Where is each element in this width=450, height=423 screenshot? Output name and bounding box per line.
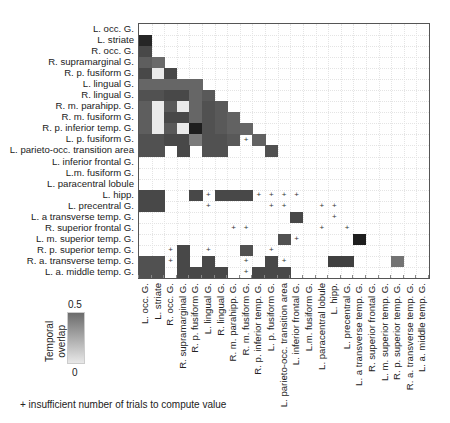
x-axis-label: L. striate [152,283,163,320]
heatmap-cell [152,101,165,113]
heatmap-cell [152,256,165,268]
insufficient-trials-marker: + [278,202,291,210]
x-axis-label: L.m. fusiform G. [303,283,314,351]
heatmap-chart: L. occ. G.L. striateR. occ. G.R. suprama… [0,0,450,423]
insufficient-trials-marker: + [202,191,215,199]
x-axis-label: L. hipp. [328,283,339,314]
gridline [252,24,253,278]
heatmap-cell [152,112,165,124]
heatmap-cell [139,79,152,91]
heatmap-cell [177,134,190,146]
heatmap-cell [152,57,165,69]
x-axis-label: L. a transverse temp. G. [353,283,364,386]
heatmap-cell [177,245,190,257]
x-tick [390,275,391,278]
x-axis-label: L. lingual G. [202,283,213,334]
y-axis-label: L. m. superior temp. G. [36,233,134,244]
x-axis-label: L. m. superior temp. G. [379,283,390,381]
heatmap-cell [202,112,215,124]
heatmap-cell [139,190,152,202]
heatmap-cell [202,90,215,102]
colorbar-title-line2: overlap [56,321,68,362]
x-axis-label: R. occ. G. [164,283,175,326]
insufficient-trials-marker: + [265,246,278,254]
heatmap-cell [152,134,165,146]
footnote: + insufficient number of trials to compu… [20,399,226,410]
x-axis-label: L. inferior frontal G. [290,283,301,365]
x-axis-label: R. p. superior temp. G. [391,283,402,380]
gridline [303,24,304,278]
heatmap-cell [227,134,240,146]
heatmap-cell [227,190,240,202]
x-tick [239,275,240,278]
heatmap-cell [227,123,240,135]
heatmap-cell [227,112,240,124]
insufficient-trials-marker: + [290,235,303,243]
heatmap-cell [164,123,177,135]
heatmap-cell [278,234,291,246]
heatmap-cell [139,112,152,124]
x-tick [340,275,341,278]
x-tick [226,275,227,278]
heatmap-cell [177,101,190,113]
heatmap-cell [341,256,354,268]
y-axis-label: R. p. superior temp. G. [37,244,134,255]
x-axis-label: L. occ. G. [139,283,150,324]
x-tick [403,275,404,278]
heatmap-cell [152,190,165,202]
colorbar-title: Temporal overlap [44,321,68,362]
heatmap-cell [189,79,202,91]
x-tick [302,275,303,278]
insufficient-trials-marker: + [278,191,291,199]
gridline [316,24,317,278]
heatmap-cell [139,46,152,58]
insufficient-trials-marker: + [164,257,177,265]
gridline [391,24,392,278]
colorbar-min-label: 0 [72,367,78,378]
heatmap-cell [189,90,202,102]
y-axis-label: R. p. inferior temp. G. [42,122,134,133]
y-axis-label: R. supramarginal G. [48,56,134,67]
heatmap-cell [139,101,152,113]
heatmap-cell [391,256,404,268]
y-axis-label: L. p. fusiform G. [66,133,134,144]
y-axis-label: R. m. parahipp. G. [56,100,134,111]
colorbar-max-label: 0.5 [68,299,82,310]
x-tick [365,275,366,278]
y-axis-label: R. a. transverse temp. G. [27,255,134,266]
y-axis-label: R. m. fusiform G. [62,111,135,122]
heatmap-cell [152,79,165,91]
insufficient-trials-marker: + [202,202,215,210]
gridline [139,212,429,213]
x-tick [352,275,353,278]
x-axis-label: R. p. fusiform G. [189,283,200,353]
heatmap-cell [152,90,165,102]
insufficient-trials-marker: + [265,202,278,210]
insufficient-trials-marker: + [265,191,278,199]
heatmap-cell [152,68,165,80]
insufficient-trials-marker: + [278,257,291,265]
heatmap-cell [240,123,253,135]
insufficient-trials-marker: + [328,202,341,210]
gridline [139,168,429,169]
x-tick [289,275,290,278]
gridline [341,24,342,278]
heatmap-cell [177,123,190,135]
heatmap-cell [202,123,215,135]
gridline [139,35,429,36]
heatmap-cell [265,145,278,157]
gridline [404,24,405,278]
heatmap-cell [139,134,152,146]
heatmap-cell [139,201,152,213]
y-axis-label: R. superior frontal G. [45,222,134,233]
y-axis-label: L. striate [97,34,134,45]
y-axis-label: L.m. fusiform G. [66,167,134,178]
heatmap-cell [189,112,202,124]
x-axis-label: L. parieto-occ. transition area [278,283,289,407]
heatmap-cell [164,134,177,146]
x-tick [378,275,379,278]
x-axis-label: L. a. middle temp. G. [416,283,427,372]
insufficient-trials-marker: + [290,191,303,199]
heatmap-cell [189,190,202,202]
heatmap-cell [328,256,341,268]
